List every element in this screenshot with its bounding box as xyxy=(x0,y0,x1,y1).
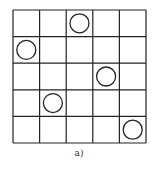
circle-marker xyxy=(97,67,116,86)
figure-caption: a) xyxy=(0,148,158,158)
grid-svg xyxy=(12,9,147,144)
circle-marker xyxy=(17,40,36,59)
circle-marker xyxy=(43,94,62,113)
circle-marker xyxy=(123,120,142,139)
circle-marker xyxy=(70,14,89,33)
grid-board xyxy=(12,9,147,148)
